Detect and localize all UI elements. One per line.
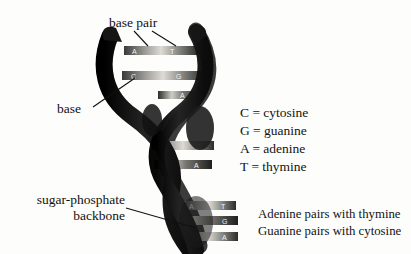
rung-5-right-base: A [194, 162, 199, 169]
rung-6-right-base: T [221, 203, 226, 210]
backbone-label-line-2: backbone [13, 208, 125, 224]
dna-diagram-figure: A T C G A G C T [0, 0, 411, 254]
label-base: base [57, 101, 81, 117]
rung-1: A T [124, 46, 198, 55]
base-abbreviation-legend: C = cytosine G = guanine A = adenine T =… [240, 104, 308, 176]
legend-row-guanine: G = guanine [240, 122, 308, 140]
label-base-pair: base pair [109, 15, 157, 31]
legend-row-cytosine: C = cytosine [240, 104, 308, 122]
pairing-rule-guanine-cytosine: Guanine pairs with cytosine [258, 223, 401, 240]
rung-7-right-base: G [222, 218, 227, 225]
rung-1-left-base: A [132, 48, 137, 55]
leader-base-pair-left [134, 31, 148, 46]
label-sugar-phosphate-backbone: sugar-phosphate backbone [13, 192, 125, 224]
backbone-label-line-1: sugar-phosphate [13, 192, 125, 208]
legend-row-thymine: T = thymine [240, 158, 308, 176]
pairing-rule-adenine-thymine: Adenine pairs with thymine [258, 206, 401, 223]
rung-1-right-base: T [170, 48, 175, 55]
rung-8-right-base: A [222, 234, 227, 241]
base-pairing-rules: Adenine pairs with thymine Guanine pairs… [258, 206, 401, 239]
leader-base-pair-right [152, 31, 176, 46]
rung-2-right-base: G [176, 73, 181, 80]
rung-3-right-base: A [180, 92, 185, 99]
legend-row-adenine: A = adenine [240, 140, 308, 158]
